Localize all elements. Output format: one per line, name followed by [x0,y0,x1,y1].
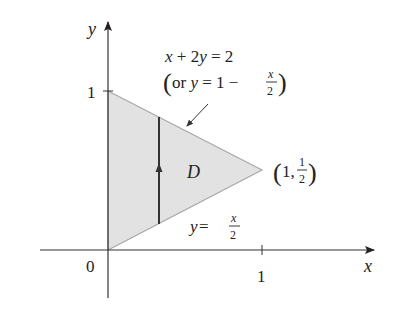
svg-text:x: x [267,67,274,81]
origin-label: 0 [86,257,95,276]
svg-text:1,: 1, [282,162,295,181]
svg-text:x: x [230,211,237,225]
svg-text:(: ( [163,68,172,97]
svg-text:1: 1 [299,155,305,169]
svg-text:y: y [188,217,198,236]
svg-text:2: 2 [230,228,236,242]
x-tick-label: 1 [257,267,266,286]
region-label: D [186,162,200,182]
svg-text:(: ( [273,158,282,187]
upper-boundary-equation: x + 2y = 2 [164,47,233,66]
region-diagram: y x 0 1 1 D x + 2y = 2 ( or y = 1 − x 2 … [0,0,393,315]
lower-boundary-equation: y = x 2 [188,211,240,242]
svg-text:): ) [278,68,287,97]
leader-arrow [187,104,208,126]
y-axis-label: y [86,19,96,39]
vertex-label: ( 1, 1 2 ) [273,155,317,187]
svg-text:2: 2 [267,84,273,98]
x-axis-label: x [363,256,372,276]
svg-text:or y = 1 −: or y = 1 − [172,73,238,92]
y-tick-label: 1 [87,83,96,102]
upper-boundary-alt: ( or y = 1 − x 2 ) [163,67,287,98]
svg-text:=: = [199,217,209,236]
svg-text:): ) [308,158,317,187]
svg-text:2: 2 [299,172,305,186]
